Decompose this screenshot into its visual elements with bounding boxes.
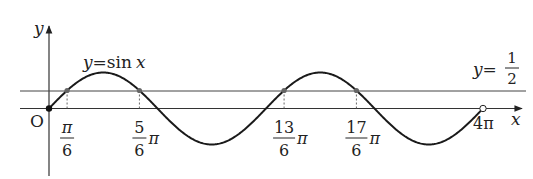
fraction-label: 136π <box>273 118 308 160</box>
svg-text:π: π <box>147 129 159 148</box>
svg-text:π: π <box>296 129 308 148</box>
svg-text:2: 2 <box>507 70 517 88</box>
origin-point <box>46 105 52 111</box>
svg-text:6: 6 <box>279 141 289 160</box>
function-label: y=sinx <box>82 52 146 72</box>
dashed-guides <box>67 91 356 109</box>
sine-graph: y x O y=sinx y= 1 2 4π π656π136π176π <box>0 0 533 179</box>
intersection-point <box>137 88 142 93</box>
intersection-point <box>281 88 286 93</box>
svg-text:6: 6 <box>62 141 72 160</box>
svg-text:6: 6 <box>351 141 361 160</box>
x-axis-label: x <box>511 109 521 129</box>
y-axis-label: y <box>33 18 44 38</box>
svg-text:π: π <box>61 118 73 137</box>
svg-text:6: 6 <box>134 141 144 160</box>
fraction-label: 176π <box>345 118 380 160</box>
svg-text:13: 13 <box>274 118 294 137</box>
domain-end-label: 4π <box>473 114 494 133</box>
svg-text:π: π <box>368 129 380 148</box>
svg-text:5: 5 <box>134 118 144 137</box>
fraction-label: π6 <box>60 118 74 160</box>
tick-labels: π656π136π176π <box>60 118 380 160</box>
origin-label: O <box>30 111 44 131</box>
fraction-label: 56π <box>132 118 159 160</box>
svg-text:1: 1 <box>507 49 517 67</box>
svg-text:y=: y= <box>472 59 497 79</box>
svg-text:17: 17 <box>346 118 366 137</box>
half-line-label: y= 1 2 <box>472 49 519 88</box>
intersection-point <box>64 88 69 93</box>
intersection-point <box>354 88 359 93</box>
end-open-circle <box>480 105 486 111</box>
